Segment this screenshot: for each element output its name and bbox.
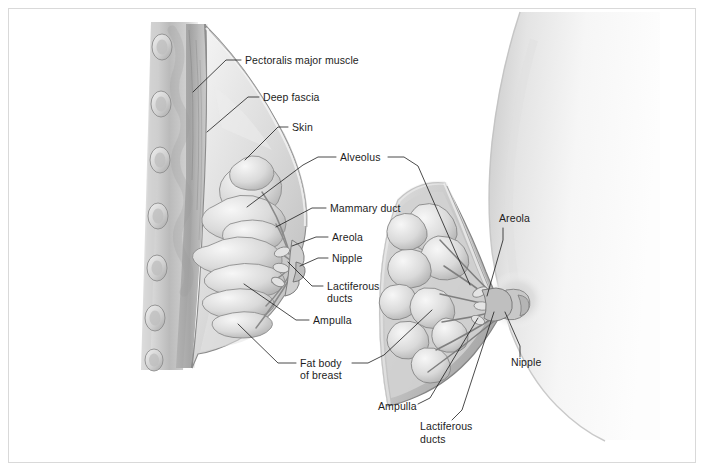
label-lactiferous-ducts-right-line2: ducts	[420, 433, 446, 445]
label-nipple-left: Nipple	[332, 252, 362, 264]
breast-anatomy-figure: Pectoralis major muscle Deep fascia Skin…	[0, 0, 706, 473]
label-skin: Skin	[292, 121, 313, 133]
label-nipple-right: Nipple	[511, 356, 541, 368]
torso-silhouette	[489, 12, 660, 441]
anatomy-illustration: Pectoralis major muscle Deep fascia Skin…	[0, 0, 706, 473]
label-fat-body-of-breast-line1: Fat body	[300, 357, 342, 369]
anterior-view	[379, 12, 660, 441]
label-alveolus: Alveolus	[340, 151, 381, 163]
label-mammary-duct: Mammary duct	[330, 202, 401, 214]
label-ampulla-left: Ampulla	[313, 314, 352, 326]
label-lactiferous-ducts-right-line1: Lactiferous	[420, 420, 472, 432]
label-ampulla-right: Ampulla	[378, 400, 417, 412]
label-deep-fascia: Deep fascia	[263, 91, 320, 103]
label-areola-left: Areola	[332, 231, 363, 243]
label-fat-body-of-breast-line2: of breast	[300, 369, 342, 381]
label-areola-right: Areola	[499, 212, 530, 224]
label-lactiferous-ducts-left-line2: ducts	[327, 292, 353, 304]
label-pectoralis-major-muscle: Pectoralis major muscle	[245, 54, 359, 66]
label-lactiferous-ducts-left-line1: Lactiferous	[327, 280, 379, 292]
sagittal-view	[141, 22, 307, 371]
